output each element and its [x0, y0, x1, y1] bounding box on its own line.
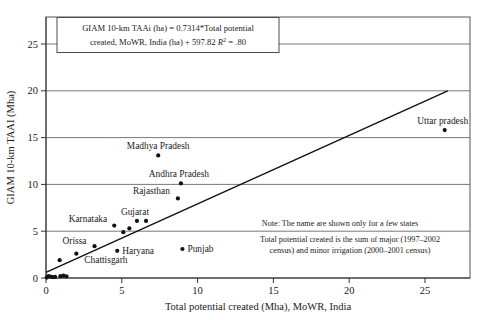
- equation-line-2-part-b: = .80: [226, 37, 246, 47]
- data-point-label: Karnataka: [69, 214, 108, 224]
- data-point: [121, 230, 125, 234]
- scatter-plot-svg: 0510152025 0510152025 Uttar pradeshMadhy…: [0, 0, 494, 320]
- y-tick-label: 10: [28, 179, 39, 190]
- y-axis: 0510152025: [28, 17, 47, 284]
- note-annotation: Note: The name are shown only for a few …: [260, 219, 440, 255]
- data-point-label: Punjab: [187, 244, 213, 254]
- data-point-label: Rajasthan: [133, 186, 170, 196]
- data-point: [144, 219, 148, 223]
- note-line-2: Total potential created is the sum of ma…: [260, 235, 440, 244]
- data-point: [64, 274, 68, 278]
- data-point-label: Orissa: [63, 236, 88, 246]
- equation-annotation: GIAM 10-km TAAi (ha) = 0.7314*Total pote…: [57, 18, 279, 53]
- data-point-label: Uttar pradesh: [417, 116, 468, 126]
- x-tick-label: 10: [192, 285, 203, 296]
- y-tick-label: 20: [28, 85, 39, 96]
- equation-line-2: created, MoWR, India (ha) + 597.82 R2 = …: [90, 36, 246, 47]
- x-tick-label: 15: [268, 285, 279, 296]
- x-tick-label: 0: [43, 285, 48, 296]
- data-point-label: Chattisgarh: [84, 255, 128, 265]
- y-tick-label: 25: [28, 39, 39, 50]
- data-point: [179, 181, 183, 185]
- data-point: [176, 196, 180, 200]
- data-point: [115, 249, 119, 253]
- data-point-label: Madhya Pradesh: [127, 141, 190, 151]
- x-axis: 0510152025: [43, 278, 470, 296]
- note-line-1: Note: The name are shown only for a few …: [262, 219, 419, 228]
- data-point: [443, 128, 447, 132]
- data-point: [45, 275, 49, 279]
- x-tick-label: 5: [119, 285, 124, 296]
- data-point-label: Andhra Pradesh: [149, 169, 209, 179]
- chart-figure: 0510152025 0510152025 Uttar pradeshMadhy…: [0, 0, 494, 320]
- data-point: [58, 258, 62, 262]
- note-line-3: census) and minor irrigation (2000–2001 …: [270, 246, 431, 255]
- y-tick-label: 15: [28, 132, 39, 143]
- equation-line-2-part-a: created, MoWR, India (ha) + 597.82: [90, 37, 218, 47]
- data-point-label: Gujarat: [121, 207, 150, 217]
- data-point: [135, 219, 139, 223]
- y-axis-title: GIAM 10-km TAAI (Mha): [5, 90, 17, 204]
- data-point: [74, 252, 78, 256]
- data-point: [112, 223, 116, 227]
- gridlines: [46, 44, 470, 231]
- data-point: [127, 226, 131, 230]
- data-point: [53, 275, 57, 279]
- x-tick-label: 25: [420, 285, 431, 296]
- data-point: [180, 247, 184, 251]
- data-point: [156, 153, 160, 157]
- equation-line-1: GIAM 10-km TAAi (ha) = 0.7314*Total pote…: [82, 23, 254, 33]
- data-point: [92, 244, 96, 248]
- y-tick-label: 5: [33, 226, 38, 237]
- y-tick-label: 0: [33, 273, 38, 284]
- x-axis-title: Total potential created (Mha), MoWR, Ind…: [165, 301, 351, 313]
- x-tick-label: 20: [344, 285, 355, 296]
